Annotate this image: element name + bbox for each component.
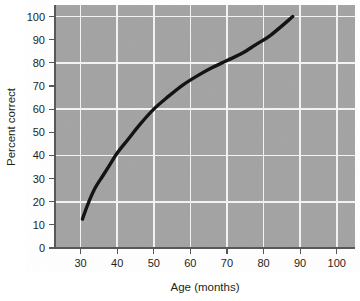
x-tick-label-80: 80	[257, 257, 269, 269]
y-tick-label-40: 40	[33, 149, 45, 161]
x-tick-label-50: 50	[148, 257, 160, 269]
x-tick-label-90: 90	[294, 257, 306, 269]
y-tick-label-10: 10	[33, 219, 45, 231]
y-tick-label-30: 30	[33, 173, 45, 185]
x-tick-label-100: 100	[328, 257, 346, 269]
y-tick-label-80: 80	[33, 57, 45, 69]
plot-area-texture	[55, 5, 355, 248]
y-tick-label-100: 100	[27, 11, 45, 23]
line-chart: 0 10 20 30 40 50 60 70 80 90 100 30 40 5…	[0, 0, 360, 301]
x-tick-label-60: 60	[184, 257, 196, 269]
y-tick-label-70: 70	[33, 80, 45, 92]
y-tick-label-50: 50	[33, 126, 45, 138]
x-tick-label-40: 40	[111, 257, 123, 269]
chart-figure: 0 10 20 30 40 50 60 70 80 90 100 30 40 5…	[0, 0, 360, 301]
y-tick-label-60: 60	[33, 103, 45, 115]
y-axis-title: Percent correct	[5, 87, 17, 166]
y-tick-label-0: 0	[39, 242, 45, 254]
y-tick-label-90: 90	[33, 34, 45, 46]
x-tick-label-70: 70	[221, 257, 233, 269]
x-tick-label-30: 30	[74, 257, 86, 269]
y-tick-label-20: 20	[33, 196, 45, 208]
x-axis-title: Age (months)	[170, 281, 239, 293]
